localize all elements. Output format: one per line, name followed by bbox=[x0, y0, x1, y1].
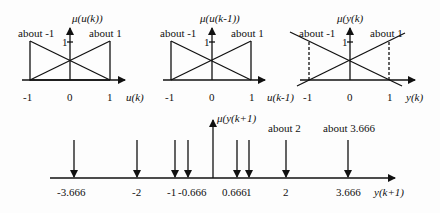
panel3-left-label: about -1 bbox=[299, 27, 335, 39]
output-tick-0.666: 0.666 bbox=[222, 186, 247, 198]
panel1-right-label: about 1 bbox=[89, 27, 122, 39]
output-tick-minus-1: -1 bbox=[167, 186, 176, 198]
output-tick-minus-3.666: -3.666 bbox=[57, 186, 85, 198]
panel3-right-label: about 1 bbox=[370, 27, 403, 39]
panel3-axis-title: μ(y(k) bbox=[337, 12, 363, 24]
panel2-axis-title: μ(u(k-1)) bbox=[200, 12, 240, 24]
panel2-x-label: u(k-1) bbox=[267, 91, 294, 103]
output-tick-minus-0.666: -0.666 bbox=[178, 186, 206, 198]
panel3-tick-1: 1 bbox=[387, 91, 393, 103]
panel1-tick-0: 0 bbox=[67, 91, 73, 103]
panel1-left-label: about -1 bbox=[18, 27, 54, 39]
output-label-about-2: about 2 bbox=[268, 122, 301, 134]
panel3-x-label: y(k) bbox=[406, 91, 423, 103]
panel1-peak-tick: 1 bbox=[62, 36, 68, 48]
panel3-tick-0: 0 bbox=[347, 91, 353, 103]
panel1-x-label: u(k) bbox=[126, 91, 144, 103]
membership-function-diagram: μ(u(k)) about -1 about 1 1 -1 0 1 u(k) μ… bbox=[0, 0, 440, 213]
panel2-peak-tick: 1 bbox=[204, 36, 210, 48]
output-label-about-3.666: about 3.666 bbox=[323, 122, 375, 134]
output-tick-minus-2: -2 bbox=[132, 186, 141, 198]
panel3-tick-minus1: -1 bbox=[303, 91, 312, 103]
output-tick-3.666: 3.666 bbox=[336, 186, 361, 198]
output-tick-2: 2 bbox=[283, 186, 289, 198]
output-axis-title: μ(y(k+1) bbox=[217, 112, 256, 124]
output-x-label: y(k+1) bbox=[374, 186, 404, 198]
panel1-tick-minus1: -1 bbox=[23, 91, 32, 103]
output-tick-1: 1 bbox=[246, 186, 252, 198]
panel3-peak-tick: 1 bbox=[342, 36, 348, 48]
panel1-axis-title: μ(u(k)) bbox=[72, 12, 103, 24]
panel2-right-label: about 1 bbox=[231, 27, 264, 39]
panel2-left-label: about -1 bbox=[160, 27, 196, 39]
panel1-tick-1: 1 bbox=[107, 91, 113, 103]
panel2-tick-minus1: -1 bbox=[165, 91, 174, 103]
panel2-tick-0: 0 bbox=[209, 91, 215, 103]
panel2-tick-1: 1 bbox=[249, 91, 255, 103]
